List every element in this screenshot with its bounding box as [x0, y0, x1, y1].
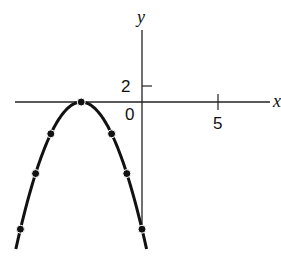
plot-area: [0, 0, 281, 268]
x-axis-label: x: [273, 92, 281, 110]
data-point: [108, 130, 116, 138]
data-point: [123, 170, 131, 178]
data-point: [32, 170, 40, 178]
y-tick-label-2: 2: [121, 78, 130, 95]
data-point: [138, 225, 146, 233]
data-point: [77, 98, 85, 106]
data-point: [16, 225, 24, 233]
x-tick-label-5: 5: [213, 115, 222, 132]
data-point: [47, 130, 55, 138]
origin-label: 0: [125, 106, 134, 123]
y-axis-label: y: [137, 8, 145, 26]
